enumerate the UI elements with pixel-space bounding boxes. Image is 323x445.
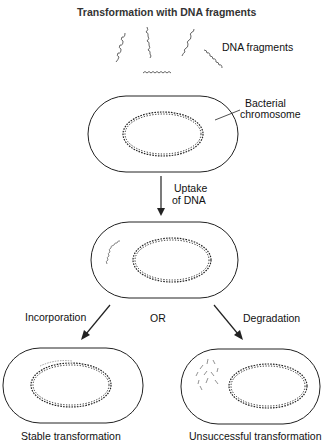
unsuccessful-transformation-label: Unsuccessful transformation: [189, 430, 321, 442]
bacterial-cell-2: [91, 222, 238, 298]
uptake-arrow: [157, 176, 165, 216]
chromosome-pointer-line: [215, 110, 240, 120]
degradation-label: Degradation: [243, 312, 300, 324]
dna-fragment-inside: [106, 241, 120, 264]
dna-fragment: [116, 33, 125, 62]
dna-fragments-label: DNA fragments: [222, 41, 293, 53]
degraded-dna-pieces: [196, 359, 218, 390]
bacterial-chromosome: [123, 112, 203, 156]
degradation-arrow: [214, 305, 243, 340]
dna-fragment: [182, 29, 194, 56]
uptake-label-line2: of DNA: [172, 194, 206, 206]
chromosome-label-line2: chromosome: [240, 108, 301, 120]
transformation-diagram: [0, 0, 323, 445]
bacterial-cell-stable: [3, 348, 143, 423]
or-label: OR: [150, 312, 166, 324]
incorporation-label: Incorporation: [25, 311, 86, 323]
dna-fragments-group: [116, 27, 222, 73]
bacterial-cell-1: [88, 96, 240, 172]
dna-fragment: [146, 27, 151, 58]
bacterial-cell-unsuccessful: [181, 349, 320, 424]
stable-transformation-label: Stable transformation: [21, 430, 121, 442]
dna-fragment: [143, 72, 171, 74]
diagram-title: Transformation with DNA fragments: [77, 6, 256, 18]
uptake-label-line1: Uptake: [174, 182, 207, 194]
dna-fragment: [204, 50, 222, 68]
